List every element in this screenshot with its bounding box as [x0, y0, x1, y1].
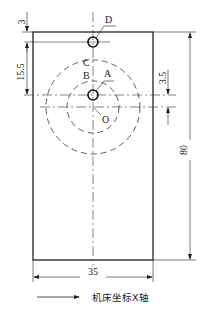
dim-80-text: 80 — [178, 145, 189, 155]
label-d: D — [105, 14, 112, 25]
label-c: C — [83, 57, 90, 68]
dim-35-text: 35 — [88, 266, 98, 277]
dim-3-5-text: 3.5 — [157, 72, 168, 85]
label-a: A — [104, 68, 112, 79]
label-o: O — [102, 114, 109, 125]
dim-15-5-text: 15.5 — [15, 63, 26, 81]
leader-a — [96, 81, 114, 91]
dim-3-text: 3 — [16, 20, 27, 25]
drawing-canvas: D C B A O 3 15.5 3.5 80 35 机床坐标X轴 — [0, 0, 204, 312]
leader-o — [94, 108, 101, 115]
legend-text: 机床坐标X轴 — [92, 292, 149, 303]
label-b: B — [83, 70, 90, 81]
